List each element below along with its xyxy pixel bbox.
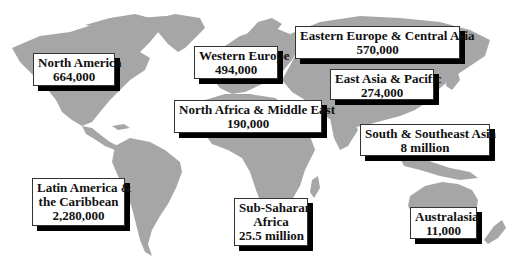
region-label-australasia: Australasia 11,000 bbox=[410, 207, 477, 239]
region-value: 664,000 bbox=[38, 70, 110, 84]
land-central-america bbox=[82, 126, 118, 150]
region-value: 190,000 bbox=[179, 117, 317, 131]
region-name: Western Europe bbox=[199, 49, 273, 63]
region-value: 494,000 bbox=[199, 63, 273, 77]
region-value: 570,000 bbox=[300, 43, 455, 57]
region-name: South & Southeast Asia bbox=[365, 127, 485, 141]
region-label-sub-saharan-africa: Sub-Saharan Africa 25.5 million bbox=[234, 198, 308, 246]
region-label-western-europe: Western Europe 494,000 bbox=[194, 46, 278, 79]
region-name: North America bbox=[38, 56, 110, 70]
region-name: Australasia bbox=[415, 210, 472, 224]
region-label-east-asia-pacific: East Asia & Pacific 274,000 bbox=[330, 69, 434, 100]
region-label-north-africa-middle-east: North Africa & Middle East 190,000 bbox=[174, 100, 322, 133]
land-caribbean bbox=[112, 124, 130, 130]
region-name-line-2: the Caribbean bbox=[37, 195, 120, 209]
region-name-line-2: Africa bbox=[239, 215, 303, 229]
region-name: East Asia & Pacific bbox=[335, 72, 429, 86]
region-label-south-southeast-asia: South & Southeast Asia 8 million bbox=[360, 124, 490, 156]
region-name: North Africa & Middle East bbox=[179, 103, 317, 117]
land-new-zealand bbox=[484, 220, 506, 244]
land-southeast-asia-islands bbox=[400, 156, 478, 180]
region-label-eastern-europe-central-asia: Eastern Europe & Central Asia 570,000 bbox=[295, 26, 460, 59]
region-value: 25.5 million bbox=[239, 229, 303, 243]
region-value: 8 million bbox=[365, 141, 485, 155]
region-value: 2,280,000 bbox=[37, 209, 120, 223]
region-name-line-1: Sub-Saharan bbox=[239, 201, 303, 215]
land-madagascar bbox=[310, 176, 320, 198]
land-india bbox=[330, 118, 358, 150]
region-name: Eastern Europe & Central Asia bbox=[300, 29, 455, 43]
region-label-latin-america-caribbean: Latin America & the Caribbean 2,280,000 bbox=[32, 178, 125, 226]
region-name-line-1: Latin America & bbox=[37, 181, 120, 195]
region-value: 274,000 bbox=[335, 86, 429, 100]
world-map-figure: North America 664,000 Western Europe 494… bbox=[0, 0, 529, 268]
region-label-north-america: North America 664,000 bbox=[33, 53, 115, 86]
region-value: 11,000 bbox=[415, 224, 472, 238]
